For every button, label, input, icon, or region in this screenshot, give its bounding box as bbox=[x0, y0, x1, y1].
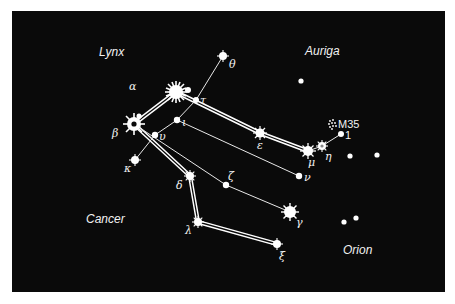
label-xi: ξ bbox=[279, 250, 286, 263]
label-m35: M35 bbox=[338, 118, 359, 130]
region-label-cancer: Cancer bbox=[86, 212, 126, 226]
label-zeta: ζ bbox=[228, 170, 235, 183]
region-label-lynx: Lynx bbox=[99, 45, 125, 59]
label-beta: β bbox=[111, 127, 118, 140]
label-lambda: λ bbox=[184, 224, 192, 237]
label-eta: η bbox=[325, 150, 332, 163]
label-mu: μ bbox=[308, 156, 315, 169]
star-tau-icon bbox=[193, 97, 199, 103]
star-beta-icon bbox=[123, 113, 145, 135]
star-delta-icon bbox=[184, 170, 196, 182]
label-epsilon: ε bbox=[257, 139, 263, 152]
label-1: 1 bbox=[345, 129, 351, 141]
field-star-icon bbox=[374, 152, 379, 157]
constellation-diagram: Lynx Auriga Cancer Orion α β γ δ ε ζ η θ… bbox=[0, 0, 455, 304]
label-upsilon: υ bbox=[159, 130, 166, 143]
region-label-auriga: Auriga bbox=[304, 44, 340, 58]
label-kappa: κ bbox=[123, 162, 132, 175]
region-label-orion: Orion bbox=[343, 243, 373, 257]
star-xi-icon bbox=[271, 238, 283, 250]
field-star-icon bbox=[341, 219, 346, 224]
label-delta: δ bbox=[176, 179, 183, 192]
field-star-icon bbox=[298, 78, 303, 83]
star-iota-icon bbox=[174, 117, 180, 123]
label-gamma: γ bbox=[296, 216, 303, 229]
star-nu-icon bbox=[296, 173, 302, 179]
label-theta: θ bbox=[229, 58, 236, 71]
label-nu: ν bbox=[304, 171, 311, 184]
label-alpha: α bbox=[129, 80, 137, 93]
star-upsilon-icon bbox=[152, 132, 158, 138]
star-1-icon bbox=[338, 131, 344, 137]
label-tau: τ bbox=[200, 94, 207, 107]
m35-cluster-icon bbox=[328, 119, 337, 130]
field-star-icon bbox=[347, 153, 352, 158]
label-iota: ι bbox=[182, 116, 186, 129]
star-epsilon-icon bbox=[253, 126, 267, 140]
field-star-icon bbox=[353, 215, 358, 220]
star-lambda-icon bbox=[192, 216, 204, 228]
star-theta-icon bbox=[217, 50, 229, 62]
